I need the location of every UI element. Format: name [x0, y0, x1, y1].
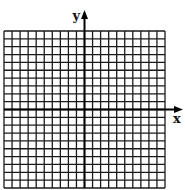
y-axis-label: y: [72, 8, 81, 23]
x-axis-label: x: [173, 111, 181, 126]
coordinate-grid: y x: [0, 0, 185, 190]
y-axis-arrow-icon: [81, 10, 88, 19]
axes: [4, 10, 183, 188]
